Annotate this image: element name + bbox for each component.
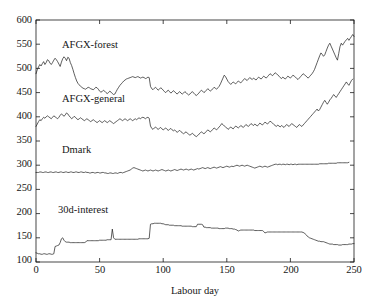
- xtick-label-250: 250: [344, 264, 364, 275]
- series-line-30d-interest: [36, 223, 354, 254]
- ytick-label-300: 300: [2, 158, 32, 169]
- series-line-dmark: [36, 162, 349, 173]
- ytick-label-150: 150: [2, 230, 32, 241]
- ytick-label-200: 200: [2, 206, 32, 217]
- x-axis-title: Labour day: [145, 285, 245, 296]
- ytick-label-250: 250: [2, 182, 32, 193]
- axis-ticks: [36, 20, 354, 262]
- ytick-label-450: 450: [2, 86, 32, 97]
- chart-figure: 600 550 500 450 400 350 300 250 200 150 …: [0, 0, 378, 308]
- xtick-label-200: 200: [281, 264, 301, 275]
- series-label-afgx-forest: AFGX-forest: [62, 39, 118, 50]
- ytick-label-600: 600: [2, 14, 32, 25]
- ytick-label-500: 500: [2, 62, 32, 73]
- series-label-30d-interest: 30d-interest: [58, 204, 108, 215]
- series-label-afgx-general: AFGX-general: [62, 93, 125, 104]
- ytick-label-350: 350: [2, 134, 32, 145]
- xtick-label-150: 150: [217, 264, 237, 275]
- ytick-label-550: 550: [2, 38, 32, 49]
- ytick-label-400: 400: [2, 110, 32, 121]
- xtick-label-0: 0: [26, 264, 46, 275]
- series-label-dmark: Dmark: [62, 144, 91, 155]
- plot-area: [0, 0, 378, 308]
- xtick-label-100: 100: [153, 264, 173, 275]
- xtick-label-50: 50: [90, 264, 110, 275]
- series-line-afgx-general: [36, 79, 353, 137]
- axes-frame: [36, 20, 354, 262]
